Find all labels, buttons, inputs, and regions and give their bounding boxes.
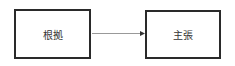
- node-claim: 主張: [145, 10, 221, 59]
- node-claim-label: 主張: [173, 27, 193, 42]
